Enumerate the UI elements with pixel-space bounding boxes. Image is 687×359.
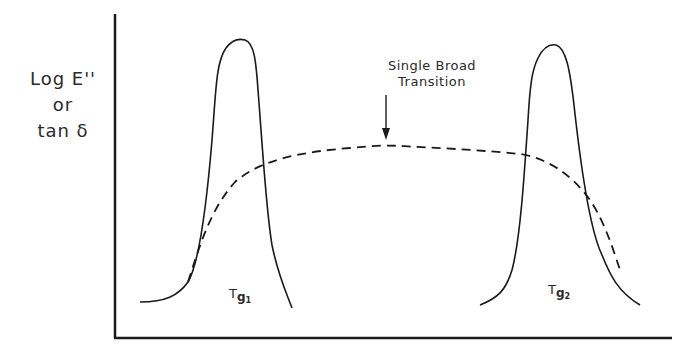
tg1-index: 1	[246, 296, 252, 305]
tg1-T: T	[229, 286, 237, 301]
single-broad-transition-annotation: Single Broad Transition	[362, 58, 502, 90]
tg2-peak-curve	[480, 45, 640, 305]
y-axis-label-line1: Log E''	[18, 66, 108, 92]
tg1-g: g	[237, 290, 246, 304]
chart-canvas	[0, 0, 687, 359]
annotation-line2: Transition	[362, 74, 502, 90]
single-broad-transition-curve	[188, 146, 620, 282]
tg2-g: g	[556, 286, 565, 300]
y-axis-label-line2: or	[18, 92, 108, 118]
tg1-peak-curve	[140, 39, 292, 308]
tg2-T: T	[548, 282, 556, 297]
annotation-arrow-head	[382, 128, 390, 140]
tg2-label: Tg2	[548, 282, 570, 297]
tg1-label: Tg1	[229, 286, 251, 301]
annotation-line1: Single Broad	[362, 58, 502, 74]
y-axis-label-line3: tan δ	[18, 118, 108, 144]
tg2-index: 2	[565, 292, 571, 301]
y-axis-label: Log E'' or tan δ	[18, 66, 108, 144]
